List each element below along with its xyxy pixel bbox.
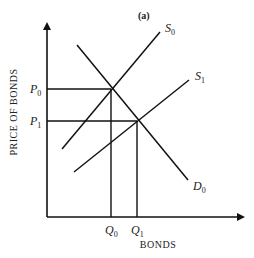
tick-p1: P1 bbox=[29, 114, 41, 130]
x-axis-title: BONDS bbox=[140, 239, 176, 250]
tick-q1: Q1 bbox=[131, 223, 144, 239]
bond-market-diagram: (a) S0 S1 D0 P0 P1 Q0 Q1 BONDS PRICE OF … bbox=[0, 0, 254, 258]
tick-p0: P0 bbox=[29, 82, 41, 98]
tick-q0: Q0 bbox=[105, 223, 118, 239]
panel-label: (a) bbox=[138, 10, 150, 22]
label-s1: S1 bbox=[195, 69, 205, 85]
label-d0: D0 bbox=[192, 179, 206, 195]
y-axis-title: PRICE OF BONDS bbox=[8, 68, 19, 155]
supply-curve-s1 bbox=[74, 80, 189, 172]
label-s0: S0 bbox=[165, 21, 175, 37]
